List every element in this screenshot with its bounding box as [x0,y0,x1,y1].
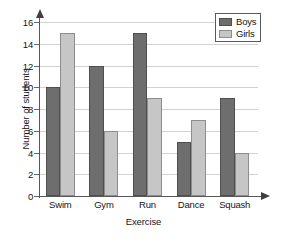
legend-item-girls: Girls [219,28,256,39]
bar-group [84,22,128,196]
y-axis-tick-label: 14 [23,38,33,49]
y-axis-tick-label: 10 [23,82,33,93]
legend-label-boys: Boys [236,16,256,27]
bar-girls-gym [104,131,119,196]
y-axis-tick-labels: 0246810121416 [0,0,38,244]
y-axis-tick-label: 0 [28,191,33,202]
legend-item-boys: Boys [219,16,256,27]
plot-area [40,22,258,196]
x-axis-tick-label: Dance [178,199,204,210]
x-axis-tick-label: Gym [94,199,113,210]
bar-boys-run [133,33,148,196]
bar-boys-swim [46,87,61,196]
x-axis-tick-label: Swim [49,199,71,210]
y-axis-tick-label: 2 [28,169,33,180]
y-axis-tick-label: 16 [23,17,33,28]
x-axis-tick-label: Run [139,199,156,210]
bar-group [171,22,215,196]
bar-group [214,22,258,196]
x-axis-title: Exercise [0,216,287,227]
bar-series-container [40,22,258,196]
bar-group [40,22,84,196]
bar-girls-squash [235,153,250,197]
bar-chart: Number of students 0246810121416 SwimGym… [0,0,287,244]
bar-girls-dance [191,120,206,196]
chart-legend: Boys Girls [215,13,261,42]
x-axis-tick-label: Squash [219,199,250,210]
legend-swatch-boys-icon [219,18,232,26]
bar-boys-squash [220,98,235,196]
legend-swatch-girls-icon [219,30,232,38]
legend-label-girls: Girls [236,28,255,39]
y-axis-tick-label: 12 [23,60,33,71]
y-axis-tick-label: 6 [28,125,33,136]
y-axis-tick-label: 4 [28,147,33,158]
y-axis-arrow-icon [36,9,44,18]
x-axis-arrow-icon [261,192,270,200]
bar-group [127,22,171,196]
bar-boys-gym [89,66,104,197]
y-axis-tick-label: 8 [28,104,33,115]
bar-boys-dance [177,142,192,196]
bar-girls-swim [60,33,75,196]
bar-girls-run [147,98,162,196]
